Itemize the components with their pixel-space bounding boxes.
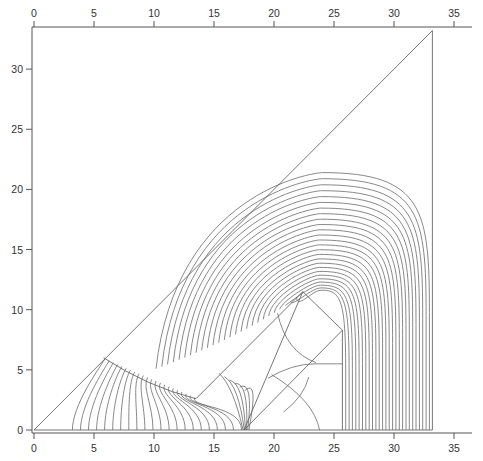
field-line-lower [190, 396, 234, 430]
field-line-upper [252, 263, 372, 430]
bottom-tick-label: 25 [328, 442, 340, 454]
field-line-upper [236, 250, 383, 430]
left-tick-label: 0 [17, 424, 23, 436]
field-line-lower [168, 387, 193, 431]
left-tick-label: 30 [11, 63, 23, 75]
left-tick-label: 10 [11, 304, 23, 316]
top-tick-label: 5 [91, 7, 97, 19]
top-tick-label: 35 [448, 7, 460, 19]
field-line-upper [291, 288, 349, 430]
bottom-tick-label: 10 [148, 442, 160, 454]
field-line-lower [146, 377, 153, 430]
top-axis-ticks: 05101520253035 [31, 7, 460, 27]
field-line-upper [297, 290, 346, 430]
bottom-tick-label: 35 [448, 442, 460, 454]
top-tick-label: 10 [148, 7, 160, 19]
bottom-tick-label: 15 [208, 442, 220, 454]
left-tick-label: 25 [11, 123, 23, 135]
dividing-curve [104, 292, 303, 399]
field-line-upper [224, 240, 389, 430]
field-line-lower [129, 372, 135, 430]
field-line-inner-region [268, 364, 342, 378]
field-lines [72, 173, 429, 430]
top-tick-label: 20 [268, 7, 280, 19]
field-line-upper [274, 279, 359, 430]
field-line-lower [72, 359, 104, 430]
field-line-lower [164, 385, 185, 430]
bottom-tick-label: 5 [91, 442, 97, 454]
contour-plot: 05101520253035 05101520253035 0510152025… [0, 0, 483, 461]
field-line-lower [186, 394, 226, 430]
field-line-lower [136, 374, 139, 430]
inner-diagonal [244, 330, 342, 430]
field-line-lower [141, 376, 145, 431]
left-axis-ticks: 051015202530 [11, 63, 32, 436]
field-line-lower [113, 368, 127, 430]
field-line-inner-region [284, 377, 309, 412]
field-line-inner-region [272, 375, 320, 430]
inner-region-boundary [244, 292, 342, 430]
bottom-tick-label: 0 [31, 442, 37, 454]
left-tick-label: 20 [11, 183, 23, 195]
field-line-upper [263, 271, 366, 430]
left-tick-label: 5 [17, 364, 23, 376]
bottom-tick-label: 20 [268, 442, 280, 454]
field-line-upper [269, 275, 363, 430]
bottom-axis-ticks: 05101520253035 [31, 433, 460, 454]
top-tick-label: 30 [388, 7, 400, 19]
top-tick-label: 15 [208, 7, 220, 19]
left-tick-label: 15 [11, 244, 23, 256]
bottom-tick-label: 30 [388, 442, 400, 454]
field-line-lower [194, 398, 241, 431]
top-tick-label: 25 [328, 7, 340, 19]
top-tick-label: 0 [31, 7, 37, 19]
